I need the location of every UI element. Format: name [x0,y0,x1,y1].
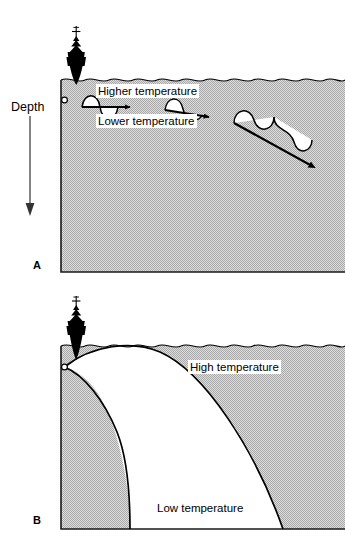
depth-axis-label: Depth [11,100,44,114]
sound-source-marker-a [62,97,68,103]
figure-canvas [0,0,345,541]
depth-arrow-icon [26,116,35,216]
sound-source-marker-b [62,364,68,370]
label-low-temperature: Low temperature [155,501,245,515]
panel-b [61,296,345,529]
panel-a-letter: A [33,259,41,271]
sonar-propagation-figure: Depth Higher temperature Lower temperatu… [0,0,345,541]
label-high-temperature: High temperature [188,360,281,374]
label-higher-temperature: Higher temperature [96,84,199,98]
ship-silhouette-icon [66,26,86,85]
panel-b-letter: B [33,514,41,526]
label-lower-temperature: Lower temperature [96,114,197,128]
panel-a [26,26,345,272]
